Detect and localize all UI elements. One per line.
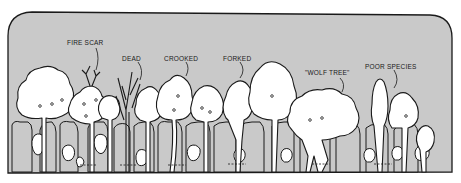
label-dead: DEAD [122, 56, 141, 63]
label-poor-species: POOR SPECIES [365, 64, 417, 71]
illustration-svg [0, 0, 461, 183]
label-wolf-tree: "WOLF TREE" [305, 70, 350, 77]
forest-thinning-illustration: FIRE SCAR DEAD CROOKED FORKED "WOLF TREE… [0, 0, 461, 183]
label-forked: FORKED [223, 56, 251, 63]
label-crooked: CROOKED [164, 56, 198, 63]
label-fire-scar: FIRE SCAR [67, 40, 103, 47]
